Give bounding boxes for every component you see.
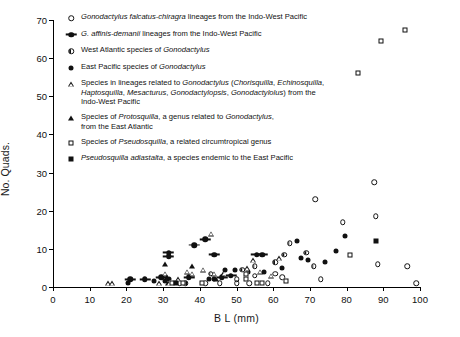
data-point — [232, 267, 237, 272]
legend-item: Pseudosquilla adiastalta, a species ende… — [64, 153, 364, 164]
data-point — [259, 252, 265, 258]
open-circle-icon — [68, 15, 74, 21]
y-tick-label: 40 — [36, 129, 47, 140]
legend-item: West Atlantic species of Gonodactylus — [64, 45, 364, 56]
legend-marker-filled-circle-icon — [64, 62, 78, 73]
data-point — [403, 27, 408, 32]
x-tick-label: 50 — [231, 294, 242, 305]
x-axis-title: B L (mm) — [53, 312, 420, 324]
legend-item-label: West Atlantic species of Gonodactylus — [81, 45, 364, 55]
data-point — [373, 239, 378, 244]
y-tick — [49, 20, 53, 21]
data-point — [268, 273, 274, 278]
x-tick-label: 40 — [195, 294, 206, 305]
legend-item-label: G. affinis-demanii lineages from the Ind… — [81, 29, 364, 39]
data-point — [156, 281, 162, 286]
data-point — [213, 277, 219, 282]
y-tick — [49, 134, 53, 135]
half-circle-icon — [68, 48, 74, 54]
y-tick-label: 70 — [36, 15, 47, 26]
y-tick — [49, 211, 53, 212]
data-point — [203, 237, 209, 243]
data-point — [212, 252, 218, 258]
y-tick-label: 30 — [36, 167, 47, 178]
data-point — [166, 250, 172, 256]
data-point — [371, 179, 377, 185]
data-point — [189, 264, 195, 269]
data-point — [298, 256, 303, 261]
x-tick — [347, 287, 348, 291]
legend-item: Species of Pseudosquilla, a related circ… — [64, 137, 364, 148]
x-tick-label: 10 — [84, 294, 95, 305]
data-point — [250, 258, 256, 263]
x-tick — [420, 287, 421, 291]
x-tick-label: 30 — [158, 294, 169, 305]
data-point — [340, 219, 346, 225]
filled-square-icon — [69, 157, 74, 162]
data-point — [234, 280, 240, 286]
legend-item: Species of Protosquilla, a genus related… — [64, 112, 364, 131]
data-point — [192, 242, 198, 248]
open-triangle-icon — [68, 82, 74, 87]
legend-item: G. affinis-demanii lineages from the Ind… — [64, 29, 364, 40]
x-tick — [237, 287, 238, 291]
y-axis-title-label: No. Quads. — [0, 141, 11, 195]
y-axis-title: No. Quads. — [0, 141, 11, 195]
legend-marker-barred-circle-icon — [64, 29, 78, 40]
data-point — [189, 271, 195, 276]
x-axis-title-label: B L (mm) — [214, 312, 259, 324]
data-point — [318, 277, 324, 283]
data-point — [206, 277, 211, 282]
data-point — [303, 250, 309, 256]
y-tick-label: 0 — [42, 282, 47, 293]
data-point — [164, 275, 170, 280]
data-point — [342, 233, 347, 238]
legend-item-label: Pseudosquilla adiastalta, a species ende… — [81, 153, 364, 163]
legend-item-label: Species of Protosquilla, a genus related… — [81, 112, 364, 131]
legend-item-label: Species in lineages related to Gonodacty… — [81, 78, 364, 107]
data-point — [280, 265, 285, 270]
data-point — [265, 280, 271, 286]
data-point — [126, 281, 131, 286]
x-tick — [126, 287, 127, 291]
data-point — [162, 262, 168, 267]
x-tick-label: 0 — [50, 294, 55, 305]
data-point — [295, 239, 300, 244]
data-point — [333, 248, 338, 253]
y-tick — [49, 249, 53, 250]
open-square-icon — [69, 140, 74, 145]
x-tick — [310, 287, 311, 291]
legend-marker-filled-square-icon — [64, 153, 78, 164]
x-tick — [273, 287, 274, 291]
data-point — [211, 271, 217, 276]
data-point — [414, 280, 420, 286]
legend-item-label: Gonodactylus falcatus-chiragra lineages … — [81, 12, 364, 22]
data-point — [373, 214, 379, 220]
filled-triangle-icon — [68, 116, 74, 121]
legend-item-label: East Pacific species of Gonodactylus — [81, 62, 364, 72]
legend-marker-filled-triangle-icon — [64, 112, 78, 123]
data-point — [252, 263, 258, 269]
data-point — [313, 197, 319, 203]
data-point — [245, 265, 251, 270]
data-point — [348, 252, 353, 257]
x-tick — [163, 287, 164, 291]
data-point — [284, 279, 289, 284]
data-point — [311, 263, 317, 269]
data-point — [243, 277, 248, 282]
filled-circle-icon — [69, 65, 74, 70]
x-tick-label: 60 — [268, 294, 279, 305]
y-tick-label: 10 — [36, 243, 47, 254]
x-tick-label: 20 — [121, 294, 132, 305]
legend-item: Species in lineages related to Gonodacty… — [64, 78, 364, 107]
x-tick — [53, 287, 54, 291]
data-point — [375, 261, 381, 267]
legend-item-label: Species of Pseudosquilla, a related circ… — [81, 137, 364, 147]
data-point — [257, 269, 263, 274]
data-point — [404, 263, 410, 269]
x-tick-label: 70 — [305, 294, 316, 305]
data-point — [322, 260, 327, 265]
x-tick — [200, 287, 201, 291]
data-point — [221, 271, 227, 276]
data-point — [228, 273, 234, 279]
